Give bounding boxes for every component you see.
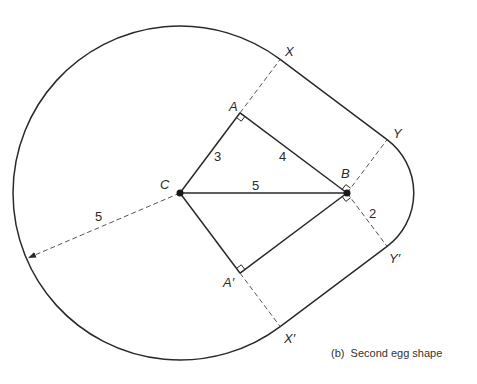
label-B: B [341, 166, 350, 181]
length-big-radius: 5 [95, 209, 102, 224]
label-Y: Y [393, 126, 403, 141]
segment-CAprime [180, 193, 240, 273]
label-Yprime: Y′ [389, 251, 401, 266]
radius-arrow [29, 193, 180, 258]
egg-shape-diagram: C A B A′ X Y Y′ X′ 3 4 5 2 5 (b) Second … [0, 0, 477, 384]
label-X: X [284, 44, 295, 59]
segment-AprimeB [240, 193, 347, 273]
right-angle-B-bottom [342, 197, 350, 202]
label-Xprime: X′ [283, 331, 296, 346]
label-C: C [160, 177, 170, 192]
figure-caption: (b) Second egg shape [331, 347, 442, 359]
length-CB: 5 [252, 178, 259, 193]
right-angle-B-top [342, 185, 350, 190]
dashed-B-to-Yprime [347, 193, 387, 246]
label-A: A [228, 99, 238, 114]
segment-CA [180, 113, 240, 193]
label-Aprime: A′ [222, 275, 235, 290]
point-C [177, 190, 184, 197]
dashed-Aprime-to-Xprime [240, 273, 280, 326]
dashed-A-to-X [240, 59, 280, 112]
length-CA: 3 [214, 149, 221, 164]
dashed-B-to-Y [347, 140, 387, 193]
length-B-Yprime: 2 [369, 206, 376, 221]
point-B [344, 190, 351, 197]
length-AB: 4 [279, 149, 286, 164]
